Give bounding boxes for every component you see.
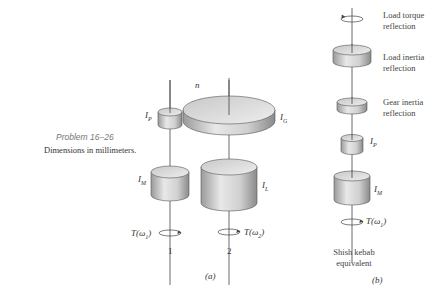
pinion-label: IP [145, 110, 152, 122]
motor-inertia-cylinder [151, 166, 189, 201]
pinion-equivalent-label: IP [370, 136, 377, 148]
load-label: IL [262, 180, 268, 192]
part-b-label: (b) [372, 275, 383, 285]
load-torque-reflection-label: Load torquereflection [383, 10, 424, 32]
torque-label-2: T(ω2) [244, 227, 264, 239]
load-inertia-cylinder [201, 159, 257, 211]
gear-label: IG [280, 112, 287, 124]
part-a-label: (a) [205, 271, 216, 281]
shaft-number-1: 1 [168, 246, 173, 256]
gear-inertia-reflection-label: Gear inertiareflection [383, 97, 423, 119]
motor-torque-label: T(ω1) [366, 216, 386, 228]
problem-number: Problem 16–26 [56, 132, 114, 142]
shish-kebab-label: Shish kebabequivalent [331, 247, 377, 269]
speed-label-n: n [195, 80, 200, 90]
shaft-number-2: 2 [227, 246, 232, 256]
dimensions-note: Dimensions in millimeters. [44, 145, 136, 155]
motor-equivalent-label: IM [374, 184, 382, 196]
load-inertia-reflection-label: Load inertiareflection [383, 52, 424, 74]
torque-label-1: T(ω1) [131, 228, 151, 240]
motor-label: IM [138, 174, 146, 186]
